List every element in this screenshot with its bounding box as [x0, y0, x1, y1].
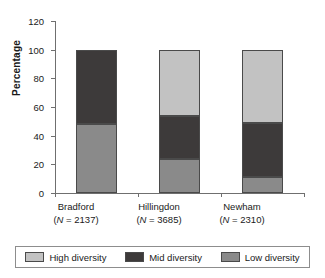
x-category-newham: Newham (N = 2310): [187, 200, 297, 226]
bar-newham: [242, 50, 283, 193]
y-tick-label-120: 120: [28, 16, 44, 27]
y-tick-label-100: 100: [28, 44, 44, 55]
plot-area: 0 20 40 60 80 100 120: [55, 21, 305, 193]
y-tick-label-0: 0: [39, 188, 44, 199]
y-axis-title: Percentage: [11, 13, 27, 123]
legend-item-mid-diversity: Mid diversity: [125, 252, 202, 263]
category-name-newham: Newham: [187, 200, 297, 213]
y-axis-line: [55, 21, 56, 193]
y-tick-label-60: 60: [33, 102, 44, 113]
y-tick-label-40: 40: [33, 130, 44, 141]
x-tick-2: [221, 193, 222, 197]
legend-swatch-low-diversity: [221, 252, 240, 262]
segment-newham-high: [242, 50, 283, 123]
segment-hillingdon-mid: [159, 116, 200, 159]
bar-hillingdon: [159, 50, 200, 193]
y-tick-60: 60: [51, 107, 55, 108]
legend-item-high-diversity: High diversity: [25, 252, 106, 263]
y-tick-40: 40: [51, 136, 55, 137]
chart-legend: High diversity Mid diversity Low diversi…: [15, 246, 310, 268]
legend-swatch-high-diversity: [25, 252, 44, 262]
stacked-bar-chart: Percentage 0 20 40 60 80 100 120: [0, 0, 325, 278]
segment-newham-low: [242, 177, 283, 193]
segment-hillingdon-low: [159, 159, 200, 193]
legend-label-high-diversity: High diversity: [49, 252, 106, 263]
legend-label-mid-diversity: Mid diversity: [149, 252, 202, 263]
x-tick-start: [55, 193, 56, 197]
y-tick-label-80: 80: [33, 73, 44, 84]
legend-item-low-diversity: Low diversity: [221, 252, 300, 263]
segment-bradford-mid: [76, 50, 117, 125]
x-tick-1: [138, 193, 139, 197]
x-tick-end: [304, 193, 305, 197]
legend-label-low-diversity: Low diversity: [245, 252, 300, 263]
segment-bradford-low: [76, 124, 117, 193]
y-tick-label-20: 20: [33, 159, 44, 170]
y-tick-20: 20: [51, 164, 55, 165]
segment-newham-mid: [242, 123, 283, 177]
y-tick-80: 80: [51, 78, 55, 79]
segment-hillingdon-high: [159, 50, 200, 116]
bar-bradford: [76, 50, 117, 193]
x-axis-line: [55, 193, 305, 194]
legend-swatch-mid-diversity: [125, 252, 144, 262]
y-tick-100: 100: [51, 50, 55, 51]
category-n-newham: (N = 2310): [187, 213, 297, 226]
y-tick-120: 120: [51, 21, 55, 22]
